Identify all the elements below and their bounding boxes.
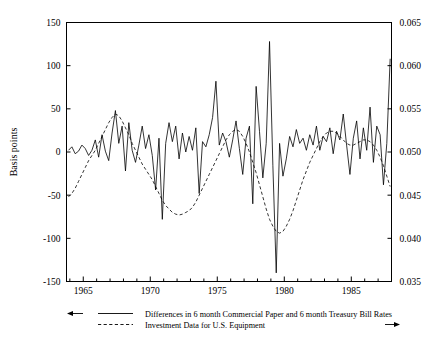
- y-right-tick-label: 0.055: [400, 104, 422, 114]
- x-tick-label: 1965: [74, 286, 93, 296]
- y-left-tick-label: -100: [43, 234, 61, 244]
- y-right-tick-label: 0.035: [400, 277, 422, 287]
- chart-canvas: -150-100-50050100150 0.0350.0400.0450.05…: [0, 0, 442, 348]
- y-left-tick-label: 150: [46, 18, 61, 28]
- y-right-tick-label: 0.050: [400, 147, 422, 157]
- y-right-tick-label: 0.045: [400, 191, 422, 201]
- y-right-tick-label: 0.060: [400, 61, 422, 71]
- x-tick-label: 1975: [208, 286, 227, 296]
- legend-label-2: Investment Data for U.S. Equipment: [145, 321, 266, 330]
- y-right-tick-label: 0.065: [400, 18, 422, 28]
- y-left-tick-label: 100: [46, 61, 61, 71]
- legend-label-1: Differences in 6 month Commercial Paper …: [145, 310, 392, 319]
- y-left-tick-label: -50: [48, 191, 61, 201]
- x-tick-label: 1985: [342, 286, 361, 296]
- x-tick-label: 1970: [141, 286, 160, 296]
- y-axis-left-title: Basis points: [8, 128, 19, 177]
- chart-figure: -150-100-50050100150 0.0350.0400.0450.05…: [0, 0, 442, 348]
- y-left-tick-label: 0: [56, 147, 61, 157]
- x-tick-label: 1980: [275, 286, 294, 296]
- y-left-tick-label: 50: [51, 104, 61, 114]
- y-left-tick-label: -150: [43, 277, 61, 287]
- y-right-tick-label: 0.040: [400, 234, 422, 244]
